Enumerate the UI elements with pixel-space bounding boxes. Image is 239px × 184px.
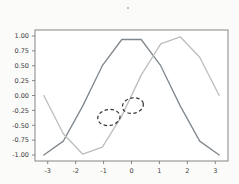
y-tick-label: 0.25 (15, 77, 29, 85)
x-tick-label: -2 (72, 167, 78, 175)
dust-speck (127, 7, 129, 9)
y-tick-label: 0.00 (15, 92, 29, 100)
y-tick-label: 0.50 (15, 62, 29, 70)
y-tick-label: -0.25 (12, 107, 29, 115)
x-tick-label: 0 (129, 167, 133, 175)
x-tick-label: 3 (213, 167, 217, 175)
line-chart: -3-2-101231.000.750.500.250.00-0.25-0.50… (0, 0, 239, 184)
x-tick-label: 1 (157, 167, 161, 175)
figure-canvas: -3-2-101231.000.750.500.250.00-0.25-0.50… (0, 0, 239, 184)
y-tick-label: -0.50 (12, 122, 29, 130)
x-tick-label: 2 (185, 167, 189, 175)
x-tick-label: -3 (44, 167, 50, 175)
y-tick-label: 0.75 (15, 47, 29, 55)
x-tick-label: -1 (100, 167, 106, 175)
y-tick-label: -0.75 (12, 136, 29, 144)
y-tick-label: -1.00 (12, 151, 29, 159)
y-tick-label: 1.00 (15, 32, 29, 40)
